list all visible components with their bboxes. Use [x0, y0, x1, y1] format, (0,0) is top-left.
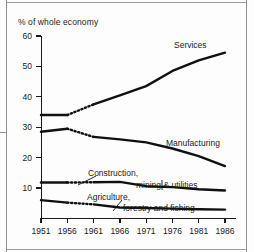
series-label-agriculture: Agriculture, — [87, 192, 130, 202]
series-label-forestry-fishing: forestry and fishing — [123, 203, 195, 213]
series-agriculture-segment-break — [67, 203, 93, 205]
series-label-manufacturing: Manufacturing — [166, 138, 220, 148]
series-services-segment-late — [94, 53, 225, 105]
chart-figure: % of whole economy 605040302010 19511956… — [0, 0, 254, 252]
series-manufacturing-segment-break — [67, 129, 93, 137]
series-label-services: Services — [174, 40, 207, 50]
series-manufacturing-segment-early — [41, 129, 67, 132]
plot-lines — [0, 0, 254, 252]
series-services-segment-break — [67, 104, 93, 115]
series-label-mining-utilities: mining & utilities — [136, 180, 197, 190]
series-agriculture-segment-early — [41, 200, 67, 202]
series-label-construction: Construction, — [88, 168, 138, 178]
